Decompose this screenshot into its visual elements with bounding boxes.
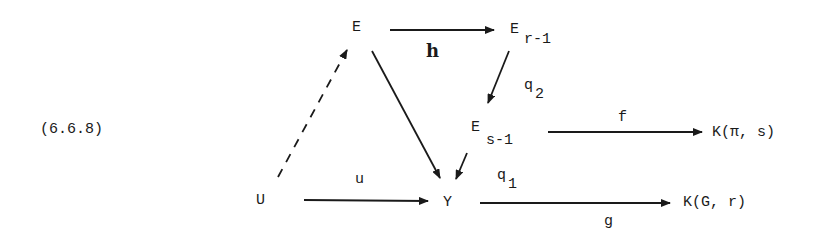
equation-number: (6.6.8) — [40, 122, 103, 137]
arrow-u-to-e-dashed — [278, 50, 347, 177]
label-q2-subscript: 2 — [535, 87, 544, 102]
label-q1-subscript: 1 — [508, 177, 517, 192]
node-k-g-r: K(G, r) — [683, 195, 746, 210]
label-q1-base: q — [497, 168, 506, 183]
node-e-r-1-base: E — [510, 22, 519, 37]
label-g: g — [604, 214, 613, 229]
arrow-q2 — [488, 51, 509, 103]
arrow-e-to-y — [372, 51, 440, 178]
arrow-u — [304, 200, 428, 201]
label-f: f — [618, 110, 627, 125]
label-q2-base: q — [524, 78, 533, 93]
node-y: Y — [443, 195, 452, 210]
node-e-s-1-subscript: s-1 — [486, 133, 513, 148]
node-u: U — [256, 193, 265, 208]
arrow-es-to-y — [456, 153, 467, 179]
node-e: E — [352, 20, 361, 35]
node-e-s-1-base: E — [471, 120, 480, 135]
node-k-pi-s: K(π, s) — [712, 125, 775, 140]
label-u: u — [355, 172, 364, 187]
label-h: h — [426, 42, 439, 60]
node-e-r-1-subscript: r-1 — [524, 32, 551, 47]
